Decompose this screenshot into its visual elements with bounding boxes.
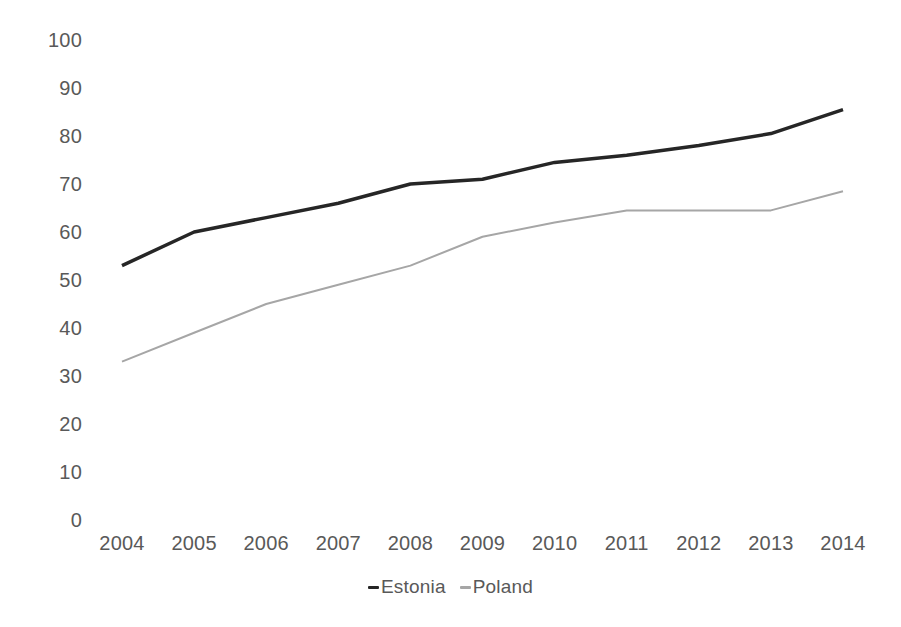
plot-area (0, 0, 901, 627)
series-layer (122, 110, 843, 362)
series-line-estonia (122, 110, 843, 266)
series-line-poland (122, 191, 843, 361)
line-chart: 0102030405060708090100 20042005200620072… (0, 0, 901, 627)
